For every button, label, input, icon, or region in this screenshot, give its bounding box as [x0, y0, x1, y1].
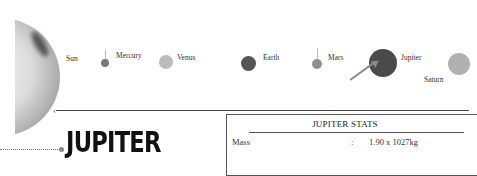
planet-label-venus: Venus	[177, 53, 195, 62]
planet-venus[interactable]	[159, 55, 173, 69]
planet-earth[interactable]	[241, 56, 256, 71]
sun-image	[0, 18, 60, 136]
planet-label-mercury: Mercury	[116, 51, 142, 60]
planet-label-jupiter: Jupiter	[401, 53, 421, 62]
page-title: JUPITER	[66, 126, 161, 158]
planet-label-sun: Sun	[66, 54, 78, 63]
stats-divider	[249, 132, 464, 133]
stat-separator: :	[351, 137, 353, 147]
stat-value: 1.90 x 1027kg	[369, 137, 418, 147]
planet-mercury[interactable]	[101, 59, 109, 67]
divider-line	[56, 110, 469, 111]
title-leader-line	[0, 149, 60, 150]
stat-label: Mass	[232, 137, 250, 147]
arrow-left-icon: ‹	[53, 106, 56, 115]
planet-label-earth: Earth	[263, 53, 279, 62]
planet-label-mars: Mars	[328, 53, 343, 62]
planet-label-saturn: Saturn	[424, 75, 444, 84]
mercury-tick	[105, 50, 106, 59]
title-bullet-icon	[59, 147, 64, 152]
planet-saturn[interactable]	[448, 53, 470, 75]
planet-mars[interactable]	[312, 59, 322, 69]
stats-panel: JUPITER STATS Mass : 1.90 x 1027kg	[226, 114, 477, 176]
stats-title: JUPITER STATS	[227, 119, 463, 129]
